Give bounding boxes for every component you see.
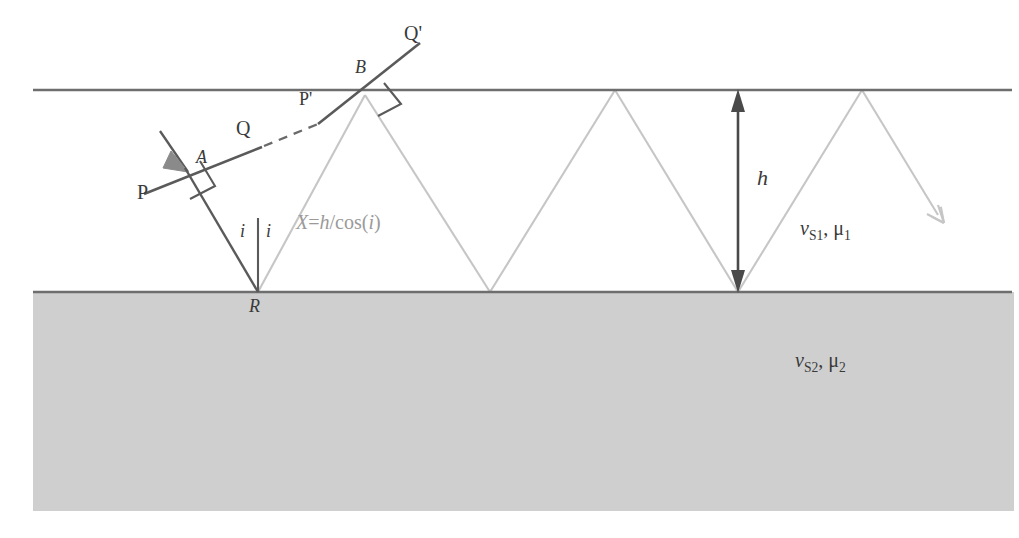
ray-segment-B-to-bounce2 <box>365 95 490 292</box>
ray-segment-R-to-B <box>258 95 365 292</box>
path-length-lhs: X <box>296 211 308 233</box>
path-length-function: cos <box>335 211 362 233</box>
ray-segment-top2-to-bounce3 <box>615 90 738 292</box>
thickness-arrow-icon <box>731 89 745 293</box>
upper-velocity-symbol: v <box>800 217 809 239</box>
upper-density-symbol: μ <box>833 217 844 239</box>
path-length-close-paren: ) <box>374 211 381 233</box>
label-point-R: R <box>249 297 260 315</box>
path-length-equals: = <box>308 211 319 233</box>
ray-path-zigzag <box>258 90 938 292</box>
label-lower-medium: vS2, μ2 <box>795 350 846 375</box>
label-wavefront-P-prime: P' <box>299 90 312 108</box>
label-upper-medium: vS1, μ1 <box>800 218 851 243</box>
lower-density-subscript: 2 <box>839 360 846 375</box>
exit-arrowhead-icon <box>927 205 945 223</box>
label-path-length: X=h/cos(i) <box>296 212 381 232</box>
right-angle-marker-B-icon <box>378 83 401 116</box>
ray-segment-bounce3-to-top3 <box>738 90 862 292</box>
label-angle-i-left: i <box>240 222 245 240</box>
label-wavefront-P: P <box>137 182 148 202</box>
upper-velocity-subscript: S1 <box>809 228 823 243</box>
lower-density-symbol: μ <box>828 349 839 371</box>
wavefront-line-PQ-prime <box>318 43 420 124</box>
incident-ray-arrow <box>160 131 188 172</box>
ray-segment-bounce2-to-top2 <box>490 90 615 292</box>
ray-segment-A-to-R <box>185 168 258 292</box>
lower-velocity-symbol: v <box>795 349 804 371</box>
lower-separator: , <box>818 349 828 371</box>
label-point-B: B <box>355 58 366 76</box>
path-length-numerator: h <box>320 211 330 233</box>
label-point-A: A <box>196 148 207 166</box>
halfspace-fill <box>33 292 1014 511</box>
ray-path-diagram <box>0 0 1019 538</box>
ray-segment-top3-to-exit <box>862 90 938 215</box>
label-wavefront-Q: Q <box>236 118 250 138</box>
upper-separator: , <box>823 217 833 239</box>
upper-density-subscript: 1 <box>844 228 851 243</box>
label-layer-thickness: h <box>757 167 768 189</box>
figure-root: P Q P' Q' A B R i i X=h/cos(i) h vS1, μ1… <box>0 0 1019 538</box>
label-angle-i-right: i <box>266 222 271 240</box>
lower-velocity-subscript: S2 <box>804 360 818 375</box>
label-wavefront-Q-prime: Q' <box>404 23 422 43</box>
wavefront-dashed-QP <box>264 124 318 146</box>
